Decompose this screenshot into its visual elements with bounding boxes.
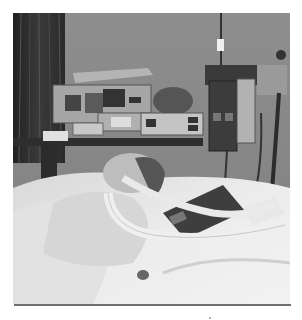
hospital-photo: Black-and-white photograph of a patient …: [13, 13, 290, 304]
photo-illustration: [13, 13, 290, 304]
stray-dot: [209, 317, 211, 319]
bottom-rule: [14, 304, 291, 306]
